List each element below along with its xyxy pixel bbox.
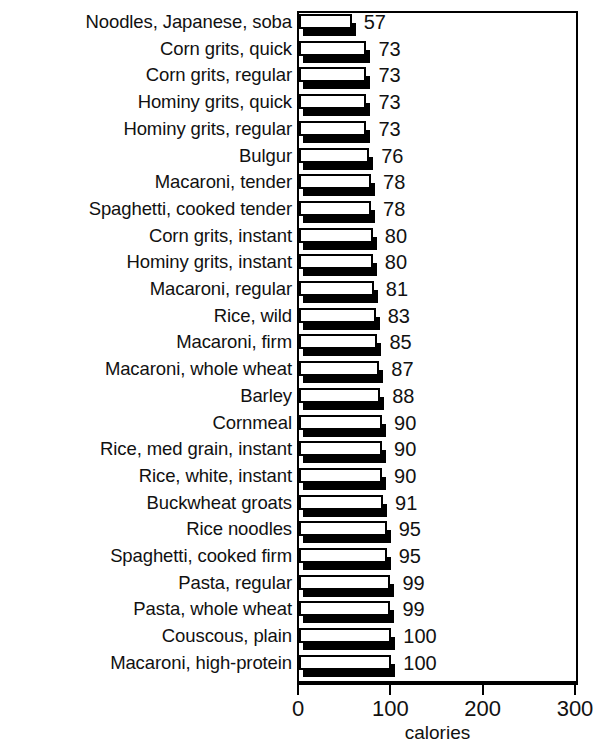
bar-value-label: 91 [395, 494, 417, 513]
category-label: Macaroni, tender [0, 173, 292, 192]
bar-value-label: 80 [385, 227, 407, 246]
category-label: Rice, wild [0, 307, 292, 326]
category-label: Bulgur [0, 147, 292, 166]
bar-face[interactable] [299, 655, 391, 670]
bar-row: 99 [299, 575, 450, 601]
category-label: Corn grits, quick [0, 40, 292, 59]
bar-face[interactable] [299, 94, 366, 109]
category-label: Spaghetti, cooked tender [0, 200, 292, 219]
category-label: Hominy grits, instant [0, 253, 292, 272]
bar-row: 87 [299, 361, 439, 387]
bar-value-label: 99 [402, 600, 424, 619]
bar-row: 73 [299, 94, 426, 120]
bar-value-label: 57 [364, 13, 386, 32]
bar-value-label: 73 [378, 120, 400, 139]
x-axis-tick-label: 100 [355, 697, 425, 721]
bar-value-label: 90 [394, 414, 416, 433]
category-label: Spaghetti, cooked firm [0, 547, 292, 566]
bar-value-label: 95 [399, 547, 421, 566]
bar-face[interactable] [299, 334, 377, 349]
bar-face[interactable] [299, 601, 390, 616]
bar-value-label: 95 [399, 520, 421, 539]
bar-face[interactable] [299, 281, 374, 296]
bar-value-label: 76 [381, 147, 403, 166]
bar-chart: Noodles, Japanese, sobaCorn grits, quick… [0, 0, 603, 750]
category-label: Pasta, whole wheat [0, 600, 292, 619]
bar-value-label: 90 [394, 440, 416, 459]
bar-face[interactable] [299, 41, 366, 56]
bar-face[interactable] [299, 201, 371, 216]
bar-face[interactable] [299, 628, 391, 643]
category-label: Corn grits, instant [0, 227, 292, 246]
x-axis-line [297, 683, 578, 685]
bar-face[interactable] [299, 495, 383, 510]
bar-row: 88 [299, 388, 440, 414]
category-label: Hominy grits, regular [0, 120, 292, 139]
bar-value-label: 83 [388, 307, 410, 326]
bar-face[interactable] [299, 468, 382, 483]
category-label: Macaroni, firm [0, 333, 292, 352]
category-label: Buckwheat groats [0, 494, 292, 513]
bar-face[interactable] [299, 148, 369, 163]
bar-face[interactable] [299, 14, 352, 29]
category-label: Noodles, Japanese, soba [0, 13, 292, 32]
bar-row: 85 [299, 334, 437, 360]
bar-row: 73 [299, 41, 426, 67]
x-axis-tick [482, 683, 484, 695]
bar-row: 99 [299, 601, 450, 627]
bar-face[interactable] [299, 308, 376, 323]
bar-value-label: 81 [386, 280, 408, 299]
bar-face[interactable] [299, 441, 382, 456]
bar-face[interactable] [299, 548, 387, 563]
bar-face[interactable] [299, 121, 366, 136]
bar-row: 73 [299, 67, 426, 93]
bar-face[interactable] [299, 388, 380, 403]
x-axis-tick-label: 200 [448, 697, 518, 721]
bar-face[interactable] [299, 361, 379, 376]
category-label: Hominy grits, quick [0, 93, 292, 112]
bar-value-label: 87 [391, 360, 413, 379]
x-axis-tick-label: 0 [263, 697, 333, 721]
bar-face[interactable] [299, 174, 371, 189]
bar-value-label: 100 [403, 654, 436, 673]
bar-face[interactable] [299, 254, 373, 269]
category-axis-labels: Noodles, Japanese, sobaCorn grits, quick… [0, 11, 292, 683]
bar-row: 90 [299, 441, 442, 467]
bar-row: 57 [299, 14, 412, 40]
category-label: Macaroni, high-protein [0, 654, 292, 673]
category-label: Rice, white, instant [0, 467, 292, 486]
bar-value-label: 78 [383, 173, 405, 192]
category-label: Cornmeal [0, 414, 292, 433]
bar-row: 90 [299, 415, 442, 441]
bar-value-label: 100 [403, 627, 436, 646]
category-label: Barley [0, 387, 292, 406]
bar-row: 80 [299, 228, 433, 254]
bar-face[interactable] [299, 575, 390, 590]
x-axis-title: calories [297, 722, 578, 744]
category-label: Couscous, plain [0, 627, 292, 646]
category-label: Rice, med grain, instant [0, 440, 292, 459]
category-label: Pasta, regular [0, 574, 292, 593]
bar-value-label: 88 [392, 387, 414, 406]
bar-row: 95 [299, 548, 447, 574]
x-axis-tick-label: 300 [540, 697, 603, 721]
bar-row: 80 [299, 254, 433, 280]
category-label: Macaroni, regular [0, 280, 292, 299]
bar-value-label: 78 [383, 200, 405, 219]
bar-row: 81 [299, 281, 434, 307]
bar-value-label: 73 [378, 93, 400, 112]
bar-row: 78 [299, 201, 431, 227]
bar-row: 91 [299, 495, 443, 521]
bar-face[interactable] [299, 67, 366, 82]
bar-row: 73 [299, 121, 426, 147]
bar-value-label: 90 [394, 467, 416, 486]
bar-face[interactable] [299, 521, 387, 536]
bar-value-label: 73 [378, 66, 400, 85]
bar-face[interactable] [299, 228, 373, 243]
bar-face[interactable] [299, 415, 382, 430]
bar-value-label: 80 [385, 253, 407, 272]
x-axis-tick [574, 683, 576, 695]
bar-value-label: 73 [378, 40, 400, 59]
category-label: Macaroni, whole wheat [0, 360, 292, 379]
bar-row: 100 [299, 628, 451, 654]
